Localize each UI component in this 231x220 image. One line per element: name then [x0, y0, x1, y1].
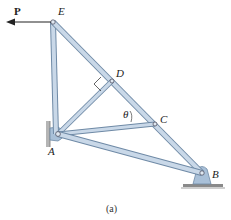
joint-label-d: D: [115, 67, 124, 79]
truss-members: [53, 22, 202, 173]
angle-arc: [130, 111, 132, 122]
figure-caption: (a): [106, 203, 117, 215]
right-angle-marker: [94, 77, 101, 91]
truss-diagram: P E D C A B θ (a): [0, 0, 231, 220]
joint-label-b: B: [212, 168, 219, 180]
angle-label: θ: [123, 108, 129, 120]
load-arrow-p: [6, 19, 51, 26]
joint-label-a: A: [47, 145, 55, 157]
load-label: P: [14, 5, 21, 17]
joint-label-c: C: [160, 113, 168, 125]
joint-label-e: E: [57, 5, 65, 17]
